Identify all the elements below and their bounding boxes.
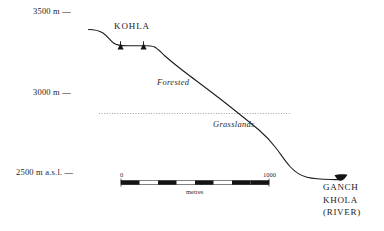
settlement-label-kohla: KOHLA xyxy=(114,21,150,31)
terrain-profile-line xyxy=(89,30,342,180)
river-label-line-2: KHOLA xyxy=(323,194,361,207)
scale-bar-units-label: metres xyxy=(186,188,203,195)
scale-bar xyxy=(121,179,269,187)
topographic-profile-figure: 3500 m — 3000 m — 2500 m a.s.l. — KOHLA … xyxy=(0,0,384,231)
river-label-line-1: GANCH xyxy=(323,181,361,194)
river-label: GANCH KHOLA (RIVER) xyxy=(323,181,361,219)
scale-bar-max-label: 1000 xyxy=(263,171,276,178)
elevation-tick-3500: 3500 m — xyxy=(33,6,71,16)
river-label-line-3: (RIVER) xyxy=(323,206,361,219)
scale-bar-min-label: 0 xyxy=(120,171,123,178)
elevation-tick-3000: 3000 m — xyxy=(33,87,71,97)
elevation-tick-2500: 2500 m a.s.l. — xyxy=(16,167,73,177)
zone-label-grasslands: Grasslands xyxy=(213,119,255,129)
zone-label-forested: Forested xyxy=(157,77,189,87)
